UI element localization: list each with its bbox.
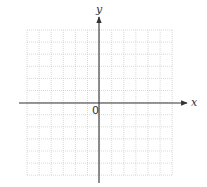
y-axis-label: y — [95, 3, 103, 16]
x-axis-label: x — [191, 96, 198, 109]
coordinate-plane: x y 0 — [0, 0, 207, 187]
origin-label: 0 — [92, 104, 99, 117]
